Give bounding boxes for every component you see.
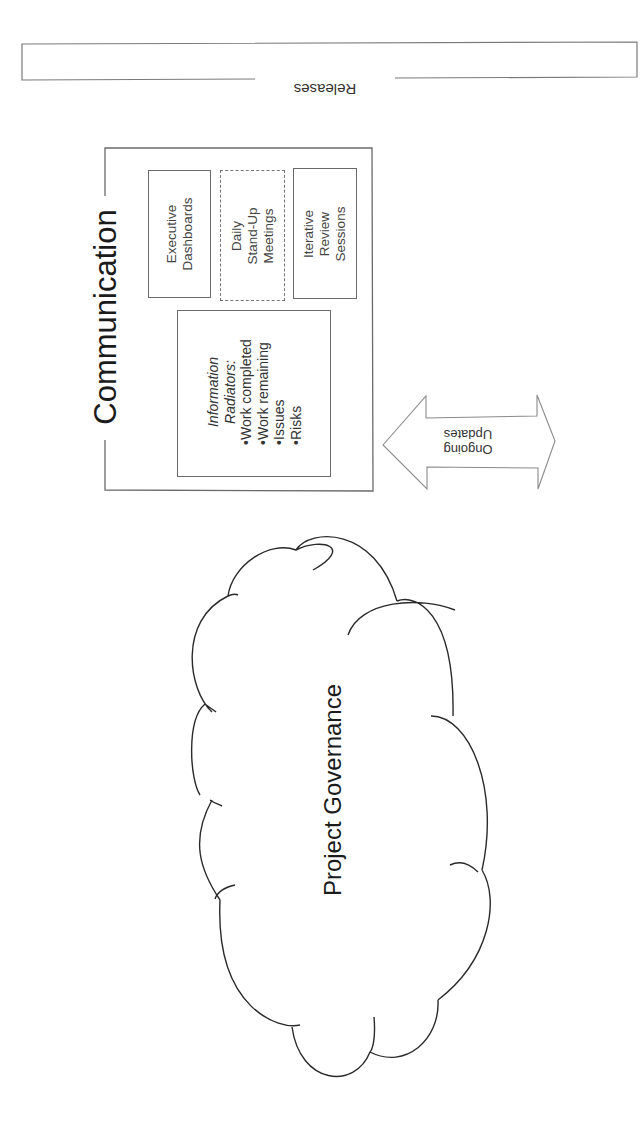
communication-title: Communication: [89, 209, 123, 424]
radiator-item: •Work remaining: [254, 339, 271, 445]
ongoing-updates-line2: Updates: [443, 427, 492, 442]
iterative-review-label: Iterative Review Sessions: [301, 207, 349, 262]
daily-standup-line1: Daily: [229, 207, 245, 264]
daily-standup-label: Daily Stand-Up Meetings: [229, 207, 277, 264]
ongoing-updates-line1: Ongoing: [443, 442, 492, 457]
information-radiators-heading1: Information: [205, 339, 222, 445]
information-radiators-heading2: Radiators:: [221, 339, 238, 445]
executive-dashboards-line2: Dashboards: [180, 198, 196, 271]
radiator-item: •Risks: [287, 339, 304, 445]
radiator-item: •Work completed: [238, 339, 255, 445]
iterative-review-line1: Iterative: [301, 207, 317, 262]
daily-standup-line3: Meetings: [261, 207, 277, 264]
radiator-item: •Issues: [271, 339, 288, 445]
releases-label: Releases: [294, 81, 357, 97]
releases-box: [22, 42, 637, 80]
ongoing-updates-label: Ongoing Updates: [443, 427, 492, 457]
information-radiators-content: Information Radiators: •Work completed •…: [205, 339, 304, 445]
iterative-review-line3: Sessions: [333, 207, 349, 262]
executive-dashboards-line1: Executive: [164, 198, 180, 271]
project-governance-label: Project Governance: [319, 684, 347, 896]
executive-dashboards-label: Executive Dashboards: [164, 198, 196, 271]
daily-standup-line2: Stand-Up: [245, 207, 261, 264]
iterative-review-line2: Review: [317, 207, 333, 262]
